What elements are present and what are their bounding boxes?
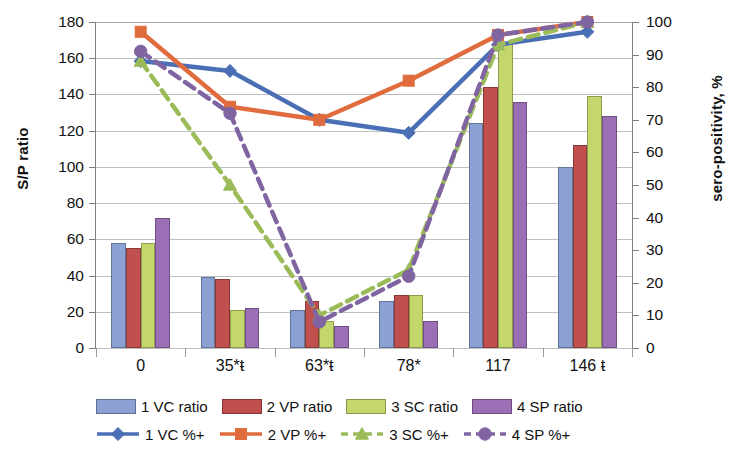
x-axis-separator — [543, 348, 544, 357]
x-axis-separator — [453, 348, 454, 357]
data-point-marker — [135, 26, 146, 37]
legend-item[interactable]: 4 SP %+ — [463, 426, 571, 443]
legend-item[interactable]: 1 VC ratio — [96, 398, 208, 415]
legend-label: 1 VC %+ — [145, 426, 205, 443]
x-axis-tick-label: 0 — [96, 357, 185, 375]
legend-label: 4 SP %+ — [512, 426, 571, 443]
legend-swatch — [96, 399, 136, 414]
legend-item[interactable]: 2 VP %+ — [219, 426, 327, 443]
legend-label: 1 VC ratio — [141, 398, 208, 415]
y-axis-right-tick — [633, 22, 639, 23]
y-axis-left-tick — [89, 131, 95, 132]
y-axis-right-tick — [633, 87, 639, 88]
y-axis-right-tick-label: 20 — [646, 275, 690, 291]
plot-area — [96, 22, 632, 348]
y-axis-left-tick — [89, 348, 95, 349]
legend-label: 3 SC ratio — [391, 398, 458, 415]
legend-label: 2 VP ratio — [267, 398, 333, 415]
y-axis-right-tick — [633, 283, 639, 284]
y-axis-left-tick-label: 40 — [40, 268, 84, 284]
y-axis-right-tick-label: 80 — [646, 79, 690, 95]
data-point-marker — [402, 270, 414, 282]
y-axis-left-tick — [89, 239, 95, 240]
legend-item[interactable]: 3 SC %+ — [340, 426, 449, 443]
legend-line-sample — [463, 427, 507, 441]
y-axis-left-tick — [89, 94, 95, 95]
legend-swatch — [472, 399, 512, 414]
y-axis-left-tick-label: 160 — [40, 50, 84, 66]
legend-item[interactable]: 1 VC %+ — [96, 426, 205, 443]
y-axis-right-tick-label: 60 — [646, 144, 690, 160]
data-point-marker — [313, 316, 325, 328]
y-axis-left-tick — [89, 167, 95, 168]
legend-item[interactable]: 3 SC ratio — [346, 398, 458, 415]
legend-row-bars: 1 VC ratio2 VP ratio3 SC ratio4 SP ratio — [96, 392, 656, 420]
y-axis-left-tick-label: 20 — [40, 304, 84, 320]
y-axis-left-tick — [89, 58, 95, 59]
y-axis-right-tick-label: 70 — [646, 112, 690, 128]
x-axis-separator — [632, 348, 633, 357]
legend-swatch — [222, 399, 262, 414]
x-axis-tick-label: 78* — [364, 357, 453, 375]
data-point-marker — [224, 107, 236, 119]
x-axis-tick-label: 146 ŧ — [543, 357, 632, 375]
y-axis-right-tick-label: 10 — [646, 307, 690, 323]
y-axis-right-tick-label: 0 — [646, 340, 690, 356]
y-axis-right-tick-label: 30 — [646, 242, 690, 258]
x-axis-separator — [275, 348, 276, 357]
y-axis-left-tick-label: 180 — [40, 14, 84, 30]
x-axis-tick-label: 117 — [453, 357, 542, 375]
y-axis-right-tick-label: 40 — [646, 210, 690, 226]
legend-item[interactable]: 2 VP ratio — [222, 398, 333, 415]
y-axis-left-tick-label: 0 — [40, 340, 84, 356]
x-axis-separator — [96, 348, 97, 357]
data-point-marker — [403, 75, 414, 86]
y-axis-right-tick — [633, 185, 639, 186]
legend-item[interactable]: 4 SP ratio — [472, 398, 583, 415]
y-axis-right-tick-label: 100 — [646, 14, 690, 30]
legend-row-lines: 1 VC %+2 VP %+3 SC %+4 SP %+ — [96, 420, 656, 448]
y-axis-left-tick-label: 140 — [40, 86, 84, 102]
y-axis-left-tick-label: 120 — [40, 123, 84, 139]
line-series-path — [141, 22, 588, 120]
data-point-marker — [235, 429, 246, 440]
x-axis-tick-label: 35*ŧ — [185, 357, 274, 375]
legend-line-sample — [340, 427, 384, 441]
y-axis-right-tick — [633, 218, 639, 219]
data-point-marker — [314, 114, 325, 125]
y-axis-right-tick — [633, 120, 639, 121]
chart-container: S/P ratio sero-positivity, % 02040608010… — [0, 0, 747, 455]
legend-line-sample — [219, 427, 263, 441]
y-axis-right-tick — [633, 250, 639, 251]
line-series-path — [141, 22, 588, 315]
x-axis-separator — [185, 348, 186, 357]
data-point-marker — [112, 428, 125, 441]
y-axis-right-tick — [633, 55, 639, 56]
data-point-marker — [492, 29, 504, 41]
y-axis-left-tick-label: 100 — [40, 159, 84, 175]
y-axis-left-tick — [89, 312, 95, 313]
legend-label: 4 SP ratio — [517, 398, 583, 415]
data-point-marker — [134, 45, 146, 57]
legend-label: 2 VP %+ — [268, 426, 327, 443]
y-axis-left-tick-label: 60 — [40, 231, 84, 247]
y-axis-left-tick — [89, 276, 95, 277]
legend-swatch — [346, 399, 386, 414]
legend-line-sample — [96, 427, 140, 441]
x-axis-tick-label: 63*ŧ — [275, 357, 364, 375]
line-series-layer — [96, 22, 632, 348]
data-point-marker — [581, 16, 593, 28]
y-axis-left-tick — [89, 22, 95, 23]
legend-label: 3 SC %+ — [389, 426, 449, 443]
y-axis-left-tick-label: 80 — [40, 195, 84, 211]
data-point-marker — [479, 428, 491, 440]
line-series-path — [141, 32, 588, 133]
x-axis-separator — [364, 348, 365, 357]
y-axis-right-tick — [633, 315, 639, 316]
y-axis-left-title: S/P ratio — [14, 89, 31, 229]
y-axis-right-tick — [633, 152, 639, 153]
y-axis-right-tick — [633, 348, 639, 349]
y-axis-right-tick-label: 50 — [646, 177, 690, 193]
y-axis-left-tick — [89, 203, 95, 204]
y-axis-right-title: sero-positivity, % — [708, 49, 725, 229]
